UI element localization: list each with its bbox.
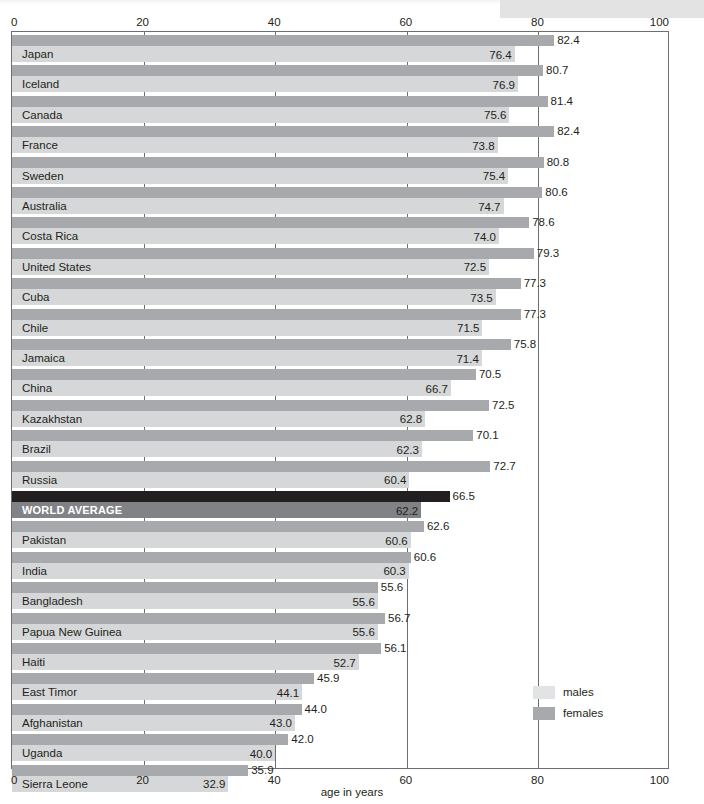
row-category-label: Pakistan	[22, 532, 66, 548]
row-category-label: Brazil	[22, 441, 51, 457]
row-category-label: Japan	[22, 46, 53, 62]
x-tick-label: 60	[399, 14, 412, 30]
bar-females	[12, 521, 424, 532]
value-label-males: 55.6	[352, 625, 377, 639]
value-label-males: 71.5	[457, 321, 482, 335]
chart-row: Iceland80.776.9	[12, 63, 668, 93]
value-label-females: 70.1	[473, 428, 498, 442]
bar-females	[12, 491, 450, 502]
value-label-females: 77.3	[521, 307, 546, 321]
value-label-males: 60.6	[385, 534, 410, 548]
value-label-females: 42.0	[288, 732, 313, 746]
value-label-females: 82.4	[554, 33, 579, 47]
bar-males	[12, 168, 508, 184]
chart-row: Russia72.760.4	[12, 459, 668, 489]
x-axis-title: age in years	[0, 786, 704, 798]
legend-swatch-males	[533, 686, 555, 699]
chart-row: Australia80.674.7	[12, 185, 668, 215]
value-label-males: 72.5	[464, 260, 489, 274]
legend-item: males	[533, 684, 603, 700]
chart-row: Pakistan62.660.6	[12, 519, 668, 549]
bar-males	[12, 563, 409, 579]
row-category-label: Canada	[22, 107, 62, 123]
chart-row: Japan82.476.4	[12, 33, 668, 63]
bar-females	[12, 278, 521, 289]
chart-row: France82.473.8	[12, 124, 668, 154]
chart-row: Papua New Guinea56.755.6	[12, 611, 668, 641]
chart-row: Uganda42.040.0	[12, 732, 668, 762]
value-label-females: 56.7	[385, 611, 410, 625]
value-label-females: 70.5	[476, 367, 501, 381]
bar-males	[12, 380, 451, 396]
chart-row: Haiti56.152.7	[12, 641, 668, 671]
x-tick-label: 100	[650, 14, 669, 30]
row-category-label: Haiti	[22, 654, 45, 670]
value-label-females: 72.5	[489, 398, 514, 412]
bar-females	[12, 248, 534, 259]
chart-row: Cuba77.373.5	[12, 276, 668, 306]
value-label-females: 78.6	[529, 215, 554, 229]
x-tick-label: 0	[11, 14, 17, 30]
row-category-label: Sierra Leone	[22, 776, 88, 792]
bar-males	[12, 107, 509, 123]
value-label-females: 66.5	[450, 489, 475, 503]
value-label-males: 74.7	[478, 200, 503, 214]
bar-males	[12, 472, 409, 488]
bar-males	[12, 289, 496, 305]
value-label-females: 75.8	[511, 337, 536, 351]
row-category-label: Australia	[22, 198, 67, 214]
chart-row: Brazil70.162.3	[12, 428, 668, 458]
value-label-males: 76.9	[493, 78, 518, 92]
value-label-males: 55.6	[352, 595, 377, 609]
row-category-label: Cuba	[22, 289, 50, 305]
value-label-females: 62.6	[424, 519, 449, 533]
legend-item: females	[533, 705, 603, 721]
bar-females	[12, 400, 489, 411]
value-label-males: 60.3	[383, 564, 408, 578]
value-label-females: 55.6	[378, 580, 403, 594]
chart-row: United States79.372.5	[12, 246, 668, 276]
row-category-label: Sweden	[22, 168, 64, 184]
x-axis-top-tick-labels: 020406080100	[0, 14, 704, 30]
bar-males	[12, 76, 518, 92]
bar-females	[12, 369, 476, 380]
value-label-males: 62.2	[396, 504, 421, 518]
value-label-females: 44.0	[302, 702, 327, 716]
bar-males	[12, 198, 504, 214]
row-category-label: Uganda	[22, 745, 62, 761]
chart-row: Sweden80.875.4	[12, 155, 668, 185]
bar-females	[12, 582, 378, 593]
bar-females	[12, 734, 288, 745]
bar-females	[12, 35, 554, 46]
bar-females	[12, 461, 490, 472]
row-category-label: India	[22, 563, 47, 579]
bar-females	[12, 430, 473, 441]
value-label-females: 56.1	[381, 641, 406, 655]
row-category-label: Costa Rica	[22, 228, 78, 244]
value-label-females: 72.7	[490, 459, 515, 473]
value-label-males: 73.5	[470, 291, 495, 305]
bar-females	[12, 217, 529, 228]
row-category-label: Russia	[22, 472, 57, 488]
x-tick-label: 80	[531, 14, 544, 30]
plot-area: Japan82.476.4Iceland80.776.9Canada81.475…	[11, 31, 669, 769]
value-label-females: 81.4	[548, 94, 573, 108]
bar-females	[12, 187, 542, 198]
value-label-females: 77.3	[521, 276, 546, 290]
bar-males	[12, 228, 499, 244]
value-label-males: 52.7	[333, 656, 358, 670]
life-expectancy-bar-chart: 020406080100 Japan82.476.4Iceland80.776.…	[0, 0, 704, 804]
bar-females	[12, 643, 381, 654]
bar-females	[12, 157, 544, 168]
value-label-males: 75.4	[483, 169, 508, 183]
value-label-males: 60.4	[384, 473, 409, 487]
chart-row: Kazakhstan72.562.8	[12, 398, 668, 428]
row-category-label: East Timor	[22, 684, 77, 700]
value-label-males: 76.4	[489, 48, 514, 62]
bar-females	[12, 673, 314, 684]
x-tick-label: 20	[136, 14, 149, 30]
chart-row: India60.660.3	[12, 550, 668, 580]
row-category-label: Chile	[22, 320, 48, 336]
chart-row: Canada81.475.6	[12, 94, 668, 124]
legend-label: females	[563, 707, 603, 719]
